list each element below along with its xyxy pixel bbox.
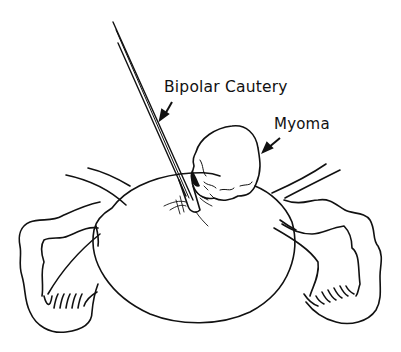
right-fallopian-tube [284,200,381,324]
arrows [160,102,280,152]
left-tube-inner [42,228,98,296]
myoma-arrow-head [263,143,272,152]
left-fimbriae [44,292,97,308]
myoma-label: Myoma [274,115,330,133]
medical-illustration: Bipolar Cautery Myoma [0,0,401,352]
uterus-body [93,173,295,323]
bipolar-cautery-label: Bipolar Cautery [164,78,288,96]
cautery-shaft-outer [113,22,193,200]
cautery-shaft-inner [118,43,186,196]
myoma-texture [200,160,252,190]
left-fallopian-tube [19,202,100,332]
right-round-ligament-2 [285,170,340,198]
right-round-ligament [272,164,326,193]
right-fimbriae [304,286,354,306]
cautery-shaft-mid [116,30,189,198]
uterus-drawing [0,0,401,352]
right-tube-inner [282,224,360,296]
